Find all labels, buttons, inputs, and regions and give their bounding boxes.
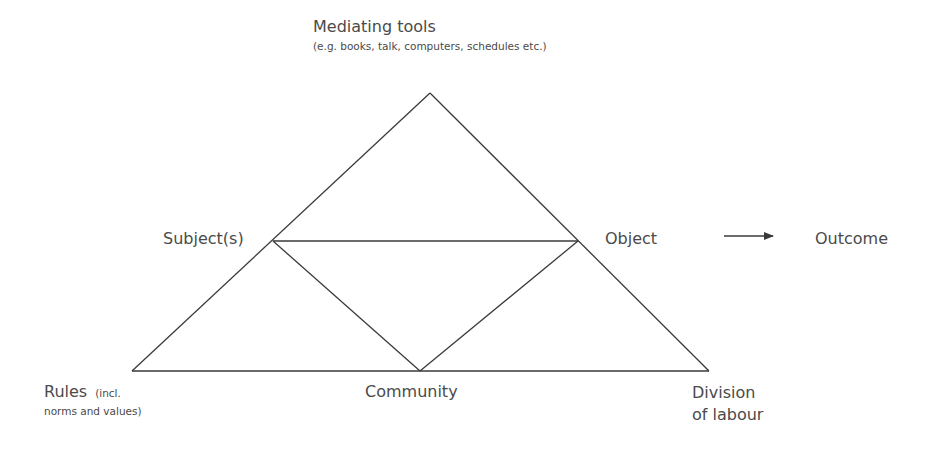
division-label-line2: of labour [692, 404, 763, 426]
edge-subject-to-community [273, 241, 420, 371]
rules-label-group: Rules(incl. [44, 382, 121, 401]
rules-sublabel-line1: (incl. [95, 387, 121, 399]
activity-triangle-diagram [0, 0, 947, 453]
division-label-line1: Division [692, 382, 763, 404]
object-label: Object [605, 229, 657, 248]
rules-label: Rules [44, 382, 87, 401]
edge-object-to-community [420, 241, 578, 371]
edge-tools-to-division [430, 93, 709, 371]
division-of-labour-label: Division of labour [692, 382, 763, 426]
mediating-tools-label: Mediating tools [313, 17, 436, 36]
subject-label: Subject(s) [163, 229, 244, 248]
community-label: Community [365, 382, 458, 401]
mediating-tools-sublabel: (e.g. books, talk, computers, schedules … [313, 40, 547, 52]
rules-sublabel-line2: norms and values) [44, 405, 142, 417]
outcome-label: Outcome [815, 229, 888, 248]
